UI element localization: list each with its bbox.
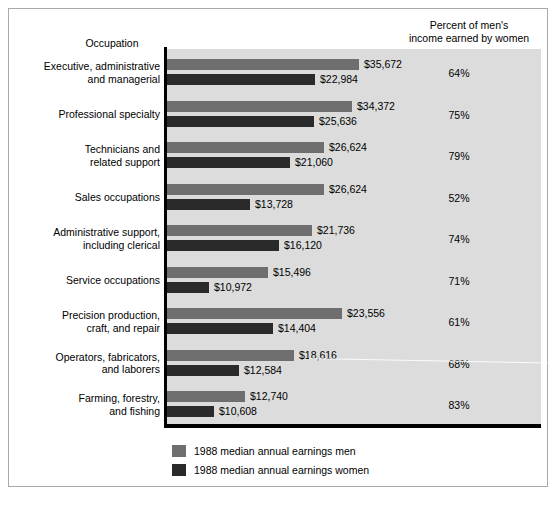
bar-value-women: $13,728 <box>255 199 293 210</box>
chart-row: Service occupations$15,496$10,97271% <box>9 261 549 303</box>
category-label: Farming, forestry, and fishing <box>19 392 160 417</box>
bar-value-women: $25,636 <box>319 116 357 127</box>
chart-row: Executive, administrative and managerial… <box>9 53 549 95</box>
bar-women <box>167 74 315 85</box>
bar-value-men: $26,624 <box>329 184 367 195</box>
chart-row: Farming, forestry, and fishing$12,740$10… <box>9 385 549 427</box>
bar-value-women: $10,972 <box>214 282 252 293</box>
bar-value-women: $16,120 <box>284 240 322 251</box>
bar-value-men: $35,672 <box>364 59 402 70</box>
legend-item: 1988 median annual earnings women <box>172 460 369 479</box>
category-label: Sales occupations <box>19 191 160 204</box>
bar-women <box>167 365 239 376</box>
bar-value-men: $18,616 <box>299 350 337 361</box>
bar-men <box>167 350 294 361</box>
category-label: Administrative support, including cleric… <box>19 226 160 251</box>
bar-value-women: $10,608 <box>219 406 257 417</box>
percent-column-header: Percent of men's income earned by women <box>394 19 544 45</box>
bar-women <box>167 323 273 334</box>
bar-women <box>167 282 209 293</box>
percent-value: 74% <box>409 233 509 245</box>
chart-row: Professional specialty$34,372$25,63675% <box>9 95 549 137</box>
category-label: Executive, administrative and managerial <box>19 60 160 85</box>
percent-value: 61% <box>409 316 509 328</box>
bar-men <box>167 101 352 112</box>
bar-value-men: $12,740 <box>250 391 288 402</box>
bar-women <box>167 240 279 251</box>
bar-men <box>167 308 342 319</box>
bar-value-men: $23,556 <box>347 308 385 319</box>
legend-label: 1988 median annual earnings men <box>194 445 356 457</box>
bar-value-men: $15,496 <box>273 267 311 278</box>
bar-value-men: $26,624 <box>329 142 367 153</box>
bar-value-men: $21,736 <box>317 225 355 236</box>
percent-value: 71% <box>409 275 509 287</box>
bar-men <box>167 142 324 153</box>
chart-legend: 1988 median annual earnings men1988 medi… <box>172 441 369 479</box>
bar-men <box>167 59 359 70</box>
bar-women <box>167 157 290 168</box>
category-label: Technicians and related support <box>19 143 160 168</box>
chart-row: Sales occupations$26,624$13,72852% <box>9 178 549 220</box>
percent-value: 83% <box>409 399 509 411</box>
chart-row: Precision production, craft, and repair$… <box>9 302 549 344</box>
men-swatch <box>172 445 186 457</box>
percent-value: 68% <box>409 358 509 370</box>
bar-men <box>167 184 324 195</box>
bar-value-women: $22,984 <box>320 74 358 85</box>
percent-value: 64% <box>409 67 509 79</box>
bar-women <box>167 116 314 127</box>
chart-row: Technicians and related support$26,624$2… <box>9 136 549 178</box>
legend-item: 1988 median annual earnings men <box>172 441 369 460</box>
percent-value: 52% <box>409 192 509 204</box>
percent-value: 79% <box>409 150 509 162</box>
category-label: Operators, fabricators, and laborers <box>19 351 160 376</box>
bar-women <box>167 199 250 210</box>
chart-row: Operators, fabricators, and laborers$18,… <box>9 344 549 386</box>
bar-value-women: $21,060 <box>295 157 333 168</box>
bar-women <box>167 406 214 417</box>
bar-value-women: $14,404 <box>278 323 316 334</box>
chart-figure: Occupation Percent of men's income earne… <box>8 8 548 487</box>
bar-men <box>167 225 312 236</box>
category-label: Precision production, craft, and repair <box>19 309 160 334</box>
bar-value-men: $34,372 <box>357 101 395 112</box>
chart-row: Administrative support, including cleric… <box>9 219 549 261</box>
bar-men <box>167 267 268 278</box>
legend-label: 1988 median annual earnings women <box>194 464 369 476</box>
occupation-column-header: Occupation <box>57 37 167 50</box>
women-swatch <box>172 464 186 476</box>
category-label: Service occupations <box>19 274 160 287</box>
bar-men <box>167 391 245 402</box>
percent-value: 75% <box>409 109 509 121</box>
bar-value-women: $12,584 <box>244 365 282 376</box>
category-label: Professional specialty <box>19 108 160 121</box>
